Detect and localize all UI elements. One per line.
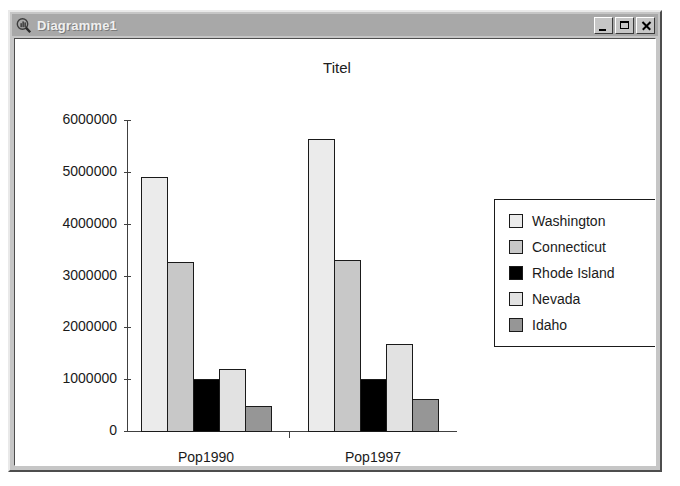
- legend-color-swatch: [509, 240, 523, 254]
- maximize-button[interactable]: [615, 17, 634, 34]
- chart-magnifier-icon: [15, 17, 32, 34]
- bar-chart: Titel 0100000020000003000000400000050000…: [15, 39, 656, 466]
- y-axis-tick-label: 6000000: [62, 111, 117, 127]
- legend-item[interactable]: Washington: [509, 210, 605, 232]
- chart-bar[interactable]: [167, 262, 194, 432]
- chart-title: Titel: [15, 59, 656, 76]
- y-axis-tick-label: 2000000: [62, 318, 117, 334]
- y-axis-tick: [124, 224, 131, 225]
- legend-item[interactable]: Idaho: [509, 314, 567, 336]
- window-controls: [594, 17, 655, 34]
- y-axis-tick-label: 0: [109, 422, 117, 438]
- x-axis-group-separator: [289, 431, 290, 438]
- legend-color-swatch: [509, 292, 523, 306]
- chart-bar[interactable]: [245, 406, 272, 432]
- legend-color-swatch: [509, 214, 523, 228]
- y-axis-tick: [124, 172, 131, 173]
- y-axis-tick: [124, 120, 131, 121]
- y-axis-tick-label: 1000000: [62, 370, 117, 386]
- legend-item-label: Rhode Island: [532, 265, 615, 281]
- chart-window: Diagramme1 Titel 01000000200000030000004…: [8, 10, 662, 472]
- y-axis-tick: [124, 379, 131, 380]
- legend-item-label: Idaho: [532, 317, 567, 333]
- chart-client-area: Titel 0100000020000003000000400000050000…: [14, 38, 656, 466]
- legend-item-label: Connecticut: [532, 239, 606, 255]
- y-axis-tick-label: 4000000: [62, 215, 117, 231]
- minimize-button[interactable]: [594, 17, 613, 34]
- window-title: Diagramme1: [37, 18, 117, 33]
- x-axis-tick-label: Pop1997: [288, 449, 458, 465]
- chart-bar[interactable]: [360, 379, 387, 432]
- y-axis-tick: [124, 431, 131, 432]
- chart-bar[interactable]: [308, 139, 335, 432]
- chart-bar[interactable]: [141, 177, 168, 432]
- legend-item[interactable]: Rhode Island: [509, 262, 615, 284]
- screen: Diagramme1 Titel 01000000200000030000004…: [0, 0, 680, 486]
- y-axis-tick-label: 3000000: [62, 267, 117, 283]
- y-axis-tick-label: 5000000: [62, 163, 117, 179]
- chart-bar[interactable]: [412, 399, 439, 432]
- legend-item[interactable]: Nevada: [509, 288, 580, 310]
- x-axis-tick-label: Pop1990: [121, 449, 291, 465]
- chart-bar[interactable]: [334, 260, 361, 432]
- window-titlebar[interactable]: Diagramme1: [12, 14, 658, 36]
- legend-item[interactable]: Connecticut: [509, 236, 606, 258]
- chart-bar[interactable]: [386, 344, 413, 432]
- chart-bar[interactable]: [193, 379, 220, 432]
- legend-item-label: Nevada: [532, 291, 580, 307]
- legend-color-swatch: [509, 266, 523, 280]
- chart-bar[interactable]: [219, 369, 246, 432]
- legend-item-label: Washington: [532, 213, 605, 229]
- legend-color-swatch: [509, 318, 523, 332]
- close-button[interactable]: [636, 17, 655, 34]
- chart-legend: WashingtonConnecticutRhode IslandNevadaI…: [494, 199, 656, 347]
- y-axis-tick: [124, 327, 131, 328]
- y-axis-tick: [124, 276, 131, 277]
